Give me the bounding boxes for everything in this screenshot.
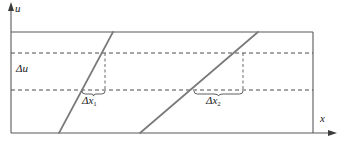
delta-x-2-label: Δx2	[206, 95, 221, 108]
x-axis-label: x	[320, 113, 325, 124]
plot-frame	[11, 32, 313, 133]
delta-x-2-label-subscript: 2	[217, 100, 220, 107]
shallow-line	[140, 32, 258, 133]
delta-u-band	[11, 53, 313, 90]
delta-x-1-label-text: Δx	[82, 94, 93, 106]
y-axis-label: u	[15, 3, 21, 14]
x-axis-arrow-icon	[328, 130, 337, 136]
delta-x-1-label-subscript: 1	[93, 100, 96, 107]
delta-u-label: Δu	[16, 63, 28, 74]
y-axis	[8, 2, 14, 133]
delta-x-2-label-text: Δx	[206, 94, 217, 106]
plot-figure: u x Δu Δx1 Δx2	[0, 0, 340, 142]
y-axis-arrow-icon	[8, 2, 14, 11]
delta-x-1-label: Δx1	[82, 95, 97, 108]
plot-canvas	[0, 0, 340, 142]
